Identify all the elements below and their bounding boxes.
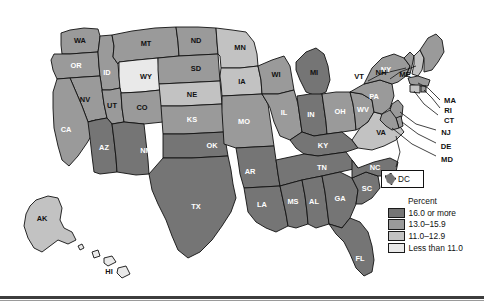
label-NM: NM <box>140 146 152 155</box>
label-WI: WI <box>271 70 280 79</box>
label-AZ: AZ <box>99 143 109 152</box>
label-IL: IL <box>281 108 288 117</box>
us-choropleth-map-figure: WA OR ID MT WY ND SD MN NE IA WI MI NV U… <box>0 0 484 306</box>
dc-shape-icon <box>385 173 396 185</box>
label-MD: MD <box>441 155 453 164</box>
label-RI: RI <box>444 106 452 115</box>
label-NC: NC <box>370 163 381 172</box>
label-ME: ME <box>399 70 410 79</box>
label-NJ: NJ <box>441 128 451 137</box>
state-AK[interactable] <box>24 196 76 252</box>
label-NE: NE <box>187 90 197 99</box>
label-MO: MO <box>238 117 250 126</box>
leader-line-RI <box>424 90 440 108</box>
label-AK: AK <box>37 214 48 223</box>
label-IA: IA <box>238 77 246 86</box>
label-CO: CO <box>136 103 147 112</box>
legend-row-2[interactable]: 11.0–12.9 <box>388 231 482 242</box>
legend-row-3[interactable]: Less than 11.0 <box>388 243 482 254</box>
legend-label-0: 16.0 or more <box>409 208 456 218</box>
label-UT: UT <box>107 101 117 110</box>
state-SD[interactable] <box>158 54 220 84</box>
label-MT: MT <box>141 39 152 48</box>
label-MA: MA <box>444 96 456 105</box>
label-IN: IN <box>307 110 314 119</box>
dc-callout-label: DC <box>398 175 410 184</box>
state-AR[interactable] <box>236 146 280 188</box>
label-OK: OK <box>206 141 218 150</box>
label-VA: VA <box>376 128 386 137</box>
state-HI[interactable] <box>78 244 130 278</box>
label-OR: OR <box>70 61 82 70</box>
label-SC: SC <box>362 184 373 193</box>
label-CA: CA <box>61 125 72 134</box>
label-AL: AL <box>309 197 319 206</box>
legend-label-1: 13.0–15.9 <box>409 219 446 229</box>
legend-label-3: Less than 11.0 <box>409 243 463 253</box>
label-OH: OH <box>334 107 345 116</box>
legend-row-1[interactable]: 13.0–15.9 <box>388 219 482 230</box>
legend-swatch-2 <box>388 231 405 242</box>
state-ME[interactable] <box>420 34 444 72</box>
dc-callout-box[interactable]: DC <box>381 170 424 188</box>
label-HI: HI <box>105 267 112 276</box>
label-MI: MI <box>310 68 318 77</box>
map-legend: Percent 16.0 or more 13.0–15.9 11.0–12.9… <box>388 196 482 254</box>
state-FL[interactable] <box>329 218 374 276</box>
label-WY: WY <box>140 72 152 81</box>
footer-rule-thin <box>0 300 484 301</box>
legend-title: Percent <box>408 196 482 206</box>
label-WA: WA <box>74 36 87 45</box>
label-VT: VT <box>354 72 364 81</box>
legend-label-2: 11.0–12.9 <box>409 231 446 241</box>
legend-swatch-0 <box>388 208 405 219</box>
label-AR: AR <box>245 167 256 176</box>
label-KY: KY <box>318 141 328 150</box>
label-PA: PA <box>369 92 379 101</box>
label-TN: TN <box>317 163 327 172</box>
label-SD: SD <box>191 64 202 73</box>
us-states-map-svg: WA OR ID MT WY ND SD MN NE IA WI MI NV U… <box>0 0 484 306</box>
footer-rule <box>0 296 484 299</box>
label-MS: MS <box>287 197 298 206</box>
state-OK[interactable] <box>163 132 228 158</box>
label-MN: MN <box>234 43 246 52</box>
label-ND: ND <box>191 36 202 45</box>
label-KS: KS <box>187 115 197 124</box>
legend-swatch-3 <box>388 243 405 254</box>
state-MA[interactable] <box>408 76 430 86</box>
legend-row-0[interactable]: 16.0 or more <box>388 208 482 219</box>
label-NH: NH <box>376 68 387 77</box>
label-ID: ID <box>103 68 111 77</box>
label-GA: GA <box>334 194 346 203</box>
label-NV: NV <box>80 95 90 104</box>
leader-line-NJ <box>400 112 436 130</box>
label-LA: LA <box>257 200 268 209</box>
label-DE: DE <box>441 142 452 151</box>
legend-swatch-1 <box>388 219 405 230</box>
label-WV: WV <box>357 105 369 114</box>
label-FL: FL <box>355 254 365 263</box>
label-TX: TX <box>191 202 201 211</box>
label-CT: CT <box>444 116 454 125</box>
